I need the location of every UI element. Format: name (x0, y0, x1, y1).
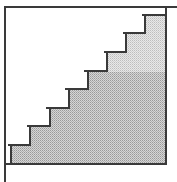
staircase-diagram (0, 0, 177, 182)
light-shaded-region (0, 0, 177, 72)
stair-fill (0, 0, 177, 182)
